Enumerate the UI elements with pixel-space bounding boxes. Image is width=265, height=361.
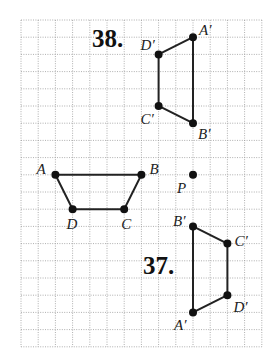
vertex-label: A — [35, 161, 46, 177]
vertex-point — [189, 308, 197, 316]
vertex-point — [155, 50, 163, 58]
vertex-point — [69, 205, 77, 213]
vertex-label: B′ — [198, 126, 211, 142]
vertex-point — [189, 33, 197, 41]
point-p — [189, 171, 197, 179]
vertex-label: D — [66, 216, 78, 232]
vertex-point — [51, 171, 59, 179]
vertex-label: B′ — [173, 213, 186, 229]
vertex-label: A′ — [198, 22, 212, 38]
vertex-point — [120, 205, 128, 213]
vertex-label: B — [149, 161, 158, 177]
vertex-label: A′ — [173, 317, 187, 333]
vertex-point — [223, 240, 231, 248]
vertex-label: C′ — [234, 233, 248, 249]
vertex-label: D′ — [140, 37, 156, 53]
problem-number: 38. — [92, 25, 123, 52]
problem-number: 37. — [143, 252, 174, 279]
vertex-point — [189, 222, 197, 230]
diagram-canvas: ABCDA′B′C′D′A′B′C′D′P38.37. — [0, 0, 265, 361]
vertex-point — [155, 102, 163, 110]
vertex-label: C′ — [141, 111, 155, 127]
vertex-point — [223, 291, 231, 299]
vertex-point — [189, 119, 197, 127]
vertex-point — [137, 171, 145, 179]
point-p-label: P — [176, 180, 186, 196]
vertex-label: C — [121, 216, 132, 232]
vertex-label: D′ — [232, 299, 248, 315]
